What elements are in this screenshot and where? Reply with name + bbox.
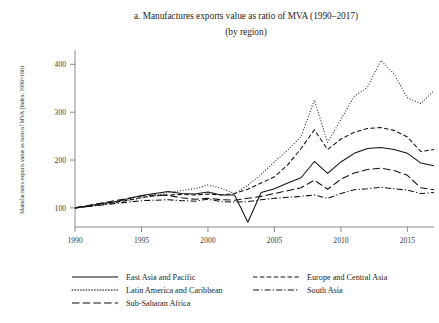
chart-subtitle: (by region): [225, 27, 267, 38]
x-tick-label: 2010: [333, 236, 348, 245]
legend-label[interactable]: Latin America and Caribbean: [126, 286, 223, 295]
legend-label[interactable]: Sub-Saharan Africa: [126, 299, 191, 308]
y-tick-label: 100: [55, 204, 67, 213]
chart-title: a. Manufactures exports value as ratio o…: [134, 11, 358, 22]
y-tick-label: 400: [55, 60, 67, 69]
x-tick-label: 2005: [267, 236, 282, 245]
y-axis-label: Manufactures exports value as ratio of M…: [19, 66, 26, 214]
x-tick-label: 1990: [67, 236, 82, 245]
manufactures-exports-line-chart: a. Manufactures exports value as ratio o…: [0, 0, 439, 323]
y-tick-label: 200: [55, 156, 67, 165]
x-tick-label: 2000: [200, 236, 215, 245]
y-tick-label: 300: [55, 108, 67, 117]
legend-label[interactable]: South Asia: [307, 286, 343, 295]
x-tick-label: 2015: [400, 236, 415, 245]
legend-label[interactable]: East Asia and Pacific: [126, 273, 196, 282]
chart-figure: a. Manufactures exports value as ratio o…: [0, 0, 439, 323]
legend-label[interactable]: Europe and Central Asia: [307, 273, 388, 282]
x-tick-label: 1995: [134, 236, 149, 245]
